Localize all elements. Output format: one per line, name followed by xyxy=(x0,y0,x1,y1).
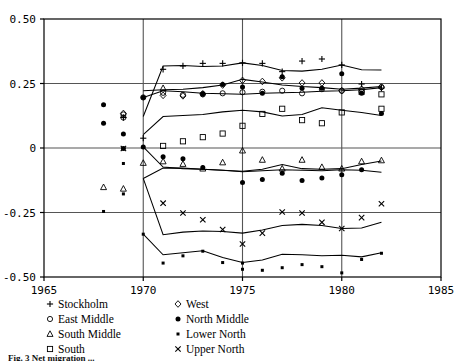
svg-text:0.25: 0.25 xyxy=(10,78,37,91)
legend-item-lower-north[interactable]: Lower North xyxy=(172,326,300,341)
circle-filled-icon xyxy=(172,312,186,326)
circle-open-icon xyxy=(44,312,58,326)
svg-text:0.50: 0.50 xyxy=(10,13,37,26)
figure-caption: Fig. 3 Net migration ... xyxy=(8,353,456,361)
legend-item-south-middle[interactable]: South Middle xyxy=(44,326,172,341)
svg-text:1985: 1985 xyxy=(428,284,455,297)
legend-item-stockholm[interactable]: Stockholm xyxy=(44,296,172,311)
points-stockholm xyxy=(120,56,384,141)
trend-line-upper-north xyxy=(143,178,381,234)
dot-small-icon xyxy=(172,327,186,341)
legend-label: Stockholm xyxy=(58,297,108,311)
legend-item-west[interactable]: West xyxy=(172,296,300,311)
svg-text:-0.25: -0.25 xyxy=(3,207,36,220)
points-south xyxy=(161,89,385,148)
plus-icon xyxy=(44,297,58,311)
legend-item-east-middle[interactable]: East Middle xyxy=(44,311,172,326)
legend-label: North Middle xyxy=(186,312,249,326)
legend-label: West xyxy=(186,297,209,311)
legend-label: South Middle xyxy=(58,327,121,341)
svg-text:-0.50: -0.50 xyxy=(3,271,36,284)
legend-label: East Middle xyxy=(58,312,114,326)
axis-tick-labels-group: 0.500.250-0.25-0.5019651970197519801985 xyxy=(3,13,454,297)
figure-container: 0.500.250-0.25-0.5019651970197519801985 … xyxy=(0,0,456,361)
diamond-open-icon xyxy=(172,297,186,311)
chart-legend: Stockholm West East Middle North Middle … xyxy=(44,296,344,356)
triangle-open-icon xyxy=(44,327,58,341)
legend-label: Lower North xyxy=(186,327,246,341)
trend-line-north-middle xyxy=(143,147,381,172)
legend-item-north-middle[interactable]: North Middle xyxy=(172,311,300,326)
svg-text:0: 0 xyxy=(29,142,36,155)
trend-line-lower-north xyxy=(143,234,381,262)
